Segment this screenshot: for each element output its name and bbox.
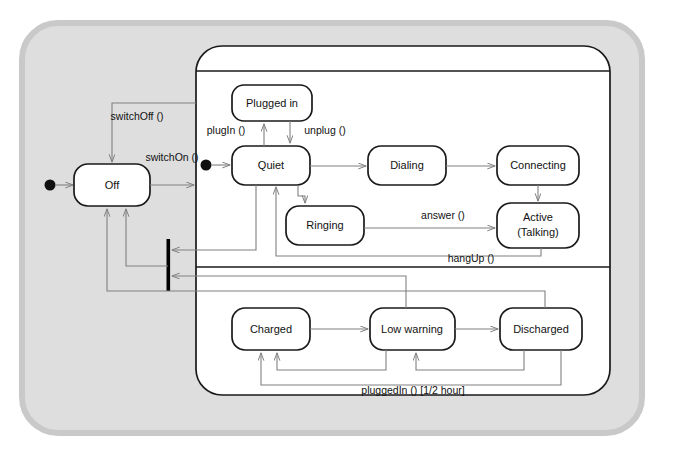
transition-unplug-label: unplug () xyxy=(304,124,345,136)
exit-join-bar-shape[interactable] xyxy=(167,239,171,291)
state-plugged-in-label: Plugged in xyxy=(246,97,298,109)
state-low-warning[interactable]: Low warning xyxy=(370,308,455,350)
state-connecting[interactable]: Connecting xyxy=(497,146,579,185)
initial-call-region-dot xyxy=(201,160,212,171)
state-plugged-in[interactable]: Plugged in xyxy=(232,85,312,121)
state-charged[interactable]: Charged xyxy=(232,308,310,350)
transition-answer-label: answer () xyxy=(421,209,465,221)
state-off-label: Off xyxy=(105,179,120,191)
transition-plug-in-label: plugIn () xyxy=(207,124,246,136)
exit-join-bar[interactable] xyxy=(167,239,171,291)
state-diagram-svg: Off Plugged in Quiet Diali xyxy=(0,0,679,456)
state-off[interactable]: Off xyxy=(74,164,150,206)
state-discharged-label: Discharged xyxy=(513,323,569,335)
state-active-talking-sublabel: (Talking) xyxy=(517,226,559,238)
state-connecting-label: Connecting xyxy=(510,159,566,171)
state-discharged[interactable]: Discharged xyxy=(500,308,582,350)
transition-switch-on-label: switchOn () xyxy=(145,151,198,163)
state-ringing[interactable]: Ringing xyxy=(286,206,364,245)
state-dialing-label: Dialing xyxy=(390,159,424,171)
state-charged-label: Charged xyxy=(250,323,292,335)
initial-outer-dot xyxy=(45,180,56,191)
transition-hang-up-label: hangUp () xyxy=(448,252,495,264)
state-quiet-label: Quiet xyxy=(258,159,284,171)
state-active-talking-label: Active xyxy=(523,211,553,223)
state-diagram-canvas: Off Plugged in Quiet Diali xyxy=(0,0,679,456)
transition-switch-off-label: switchOff () xyxy=(111,110,164,122)
state-active-talking[interactable]: Active (Talking) xyxy=(497,203,579,248)
transition-plugged-in-half-hour-label: pluggedIn () [1/2 hour] xyxy=(361,384,464,396)
state-ringing-label: Ringing xyxy=(306,219,343,231)
state-quiet[interactable]: Quiet xyxy=(232,146,310,185)
state-low-warning-label: Low warning xyxy=(381,323,443,335)
state-dialing[interactable]: Dialing xyxy=(368,146,446,185)
